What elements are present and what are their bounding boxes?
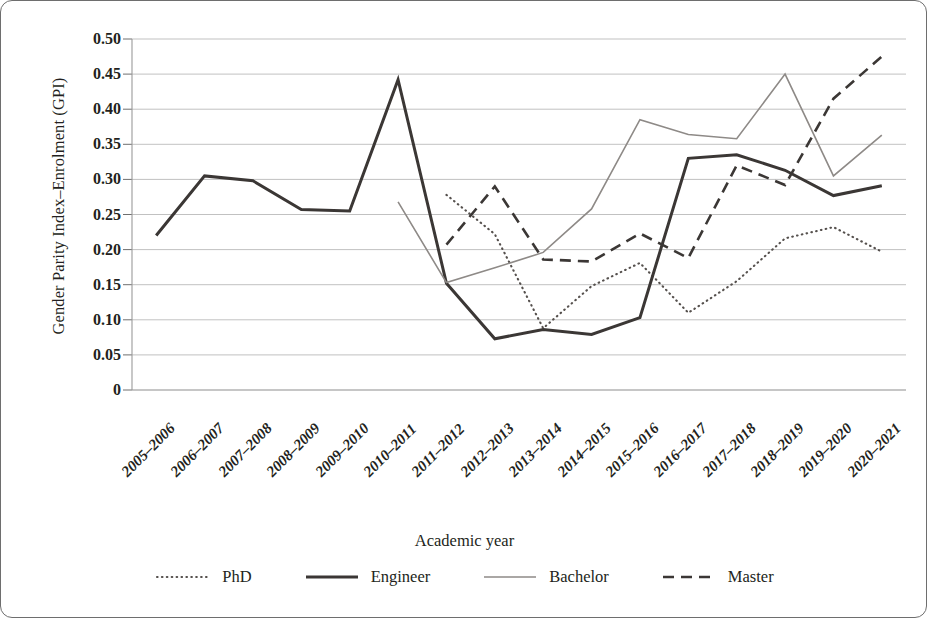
legend-item-bachelor[interactable]: Bachelor	[482, 567, 609, 587]
y-axis-tick-label: 0.05	[59, 347, 121, 363]
legend-label: Engineer	[371, 567, 431, 587]
y-axis-tick-label: 0.20	[59, 242, 121, 258]
x-axis-title: Academic year	[1, 531, 927, 551]
legend-swatch-solid-thick	[304, 570, 360, 584]
gridlines-group	[132, 39, 906, 390]
y-axis-tick-label: 0.30	[59, 171, 121, 187]
y-axis-tick-label: 0.50	[59, 31, 121, 47]
y-axis-tick-label: 0.45	[59, 66, 121, 82]
series-line-bachelor	[398, 74, 882, 282]
chart-figure: Gender Parity Index–Enrolment (GPI) Acad…	[0, 0, 927, 618]
chart-legend: PhDEngineerBachelorMaster	[1, 567, 927, 587]
data-series-group	[156, 57, 882, 339]
y-axis-tick-label: 0.10	[59, 312, 121, 328]
y-axis-tick-label: 0	[59, 382, 121, 398]
legend-label: PhD	[222, 567, 251, 587]
legend-item-engineer[interactable]: Engineer	[304, 567, 431, 587]
legend-label: Master	[728, 567, 774, 587]
line-chart-plot	[1, 1, 927, 618]
y-axis-tick-label: 0.25	[59, 207, 121, 223]
legend-label: Bachelor	[549, 567, 609, 587]
series-line-engineer	[156, 80, 882, 339]
axis-lines-group	[123, 39, 132, 390]
legend-swatch-dashed	[661, 570, 717, 584]
legend-item-phd[interactable]: PhD	[155, 567, 251, 587]
legend-item-master[interactable]: Master	[661, 567, 774, 587]
y-axis-tick-label: 0.35	[59, 136, 121, 152]
y-axis-tick-label: 0.15	[59, 277, 121, 293]
y-axis-tick-label: 0.40	[59, 101, 121, 117]
legend-swatch-solid-thin	[482, 570, 538, 584]
legend-swatch-dotted	[155, 570, 211, 584]
